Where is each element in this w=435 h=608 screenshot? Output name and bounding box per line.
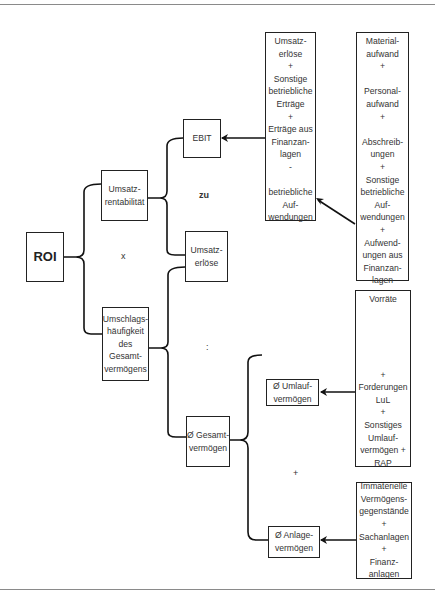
box-line <box>382 356 384 369</box>
box-line: Umsatz- <box>109 183 141 196</box>
box-line: Forderungen <box>358 381 407 394</box>
box-line: häufigkeit <box>107 325 144 338</box>
operator-text: + <box>381 518 386 531</box>
box-line: Auf- <box>283 199 299 212</box>
brace-umsatzrentabilitaet <box>147 138 185 255</box>
box-line: Sonstige <box>366 174 399 187</box>
box-line <box>381 73 383 86</box>
box-line: betriebliche <box>269 85 313 98</box>
box-line: lagen <box>280 148 301 161</box>
operator-text: + <box>380 60 385 73</box>
box-line <box>289 174 291 187</box>
box-line: ungen <box>371 148 395 161</box>
box-line: Vorräte <box>369 293 397 306</box>
box-line: Umsatz- <box>191 244 223 257</box>
box-line: anlagen <box>369 568 400 581</box>
box-line: Sachanlagen <box>359 531 409 544</box>
ebit-components-box: Umsatz-erlöse+SonstigebetrieblicheErträg… <box>265 32 316 221</box>
box-line <box>382 318 384 331</box>
aufwendungen-box: Material-aufwand+ Personal-aufwand+ Absc… <box>356 32 409 281</box>
box-line: Sonstige <box>274 73 307 86</box>
operator-text: + <box>380 406 385 419</box>
box-line: Sonstiges <box>364 419 402 432</box>
umschlagshaeufigkeit-box: Umschlags-häufigkeitdesGesamt-vermögens <box>102 307 149 381</box>
operator-multiply: x <box>121 251 126 261</box>
ebit-box: EBIT <box>183 119 221 158</box>
operator-zu: zu <box>199 190 209 200</box>
roi-label: ROI <box>33 251 56 264</box>
box-line: Ø Umlauf- <box>273 380 312 393</box>
box-line: Ø Gesamt- <box>187 429 229 442</box>
operator-text: - <box>289 161 292 174</box>
umlaufvermoegen-box: Ø Umlauf-vermögen <box>266 379 319 406</box>
box-line: betriebliche <box>269 186 313 199</box>
operator-divide: : <box>206 342 209 352</box>
box-line <box>382 306 384 319</box>
box-line: wendungen <box>360 211 404 224</box>
box-line: vermögen <box>275 542 313 555</box>
box-line: Erträge <box>276 98 304 111</box>
box-line: Personal- <box>364 85 401 98</box>
operator-text: + <box>380 111 385 124</box>
box-line: Material- <box>366 35 399 48</box>
box-line: rentabilität <box>105 196 145 209</box>
box-line: Finanzan- <box>271 136 309 149</box>
box-line: Umschlags- <box>103 313 148 326</box>
box-line <box>382 343 384 356</box>
box-line: Umlauf- <box>368 432 398 445</box>
box-line: lagen <box>372 274 393 287</box>
box-line: erlöse <box>195 257 218 270</box>
box-line: Immaterielle <box>361 480 408 493</box>
operator-text: + <box>381 543 386 556</box>
box-line: des <box>119 338 133 351</box>
box-line <box>382 331 384 344</box>
operator-text: + <box>380 161 385 174</box>
box-line: Ø Anlage- <box>275 529 313 542</box>
box-line: Abschreib- <box>362 136 403 149</box>
umsatzrentabilitaet-box: Umsatz-rentabilität <box>101 170 148 221</box>
box-line: vermögen <box>189 442 227 455</box>
box-line: RAP <box>374 457 392 470</box>
operator-text: + <box>288 111 293 124</box>
operator-plus: + <box>293 468 298 478</box>
box-line: aufwand <box>366 48 399 61</box>
arrow-line-aufwendungen <box>318 200 355 224</box>
box-line: Erträge aus <box>268 123 312 136</box>
umlauf-components-box: Vorräte +ForderungenLuL+SonstigesUmlauf-… <box>355 290 411 467</box>
anlage-components-box: ImmaterielleVermögens-gegenstände+Sachan… <box>356 482 412 579</box>
box-line: EBIT <box>192 132 211 145</box>
gesamtvermoegen-box: Ø Gesamt-vermögen <box>186 416 230 467</box>
box-line: betriebliche <box>361 186 405 199</box>
box-line: gegenstände <box>359 505 409 518</box>
box-line: wendungen <box>268 211 312 224</box>
anlagevermoegen-box: Ø Anlage-vermögen <box>268 526 320 558</box>
operator-text: + <box>380 369 385 382</box>
brace-roi <box>64 184 102 334</box>
box-line: Aufwend- <box>364 237 400 250</box>
box-line: vermögen <box>273 393 311 406</box>
box-line <box>381 123 383 136</box>
brace-gesamtvermoegen <box>229 355 268 540</box>
box-line: Vermögens- <box>361 493 407 506</box>
box-line: Finanz- <box>370 556 399 569</box>
box-line: Finanzan- <box>363 262 401 275</box>
box-line: Gesamt- <box>109 350 142 363</box>
box-line: Auf- <box>375 199 391 212</box>
box-line: vermögen + <box>360 444 406 457</box>
box-line: vermögens <box>104 363 147 376</box>
box-line: ungen aus <box>362 249 402 262</box>
box-line: Umsatz- <box>275 35 307 48</box>
box-line: aufwand <box>366 98 399 111</box>
box-line: erlöse <box>279 48 302 61</box>
brace-umschlagshaeufigkeit <box>148 267 186 437</box>
operator-text: + <box>380 224 385 237</box>
roi-box: ROI <box>26 232 64 282</box>
umsatzerloese-box: Umsatz-erlöse <box>185 231 228 282</box>
box-line: LuL <box>376 394 390 407</box>
operator-text: + <box>288 60 293 73</box>
